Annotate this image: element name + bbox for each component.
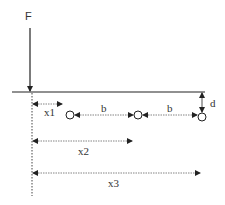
- support-circle-3: [198, 113, 206, 121]
- b-label-2: b: [167, 102, 173, 114]
- x3-label: x3: [108, 177, 120, 189]
- b-label-1: b: [101, 102, 107, 114]
- x1-label: x1: [44, 106, 55, 118]
- d-label: d: [210, 97, 216, 109]
- support-circle-1: [66, 111, 74, 119]
- beam-diagram: F x1 b b d x2 x3: [0, 0, 225, 205]
- force-label: F: [25, 10, 32, 22]
- support-circle-2: [134, 111, 142, 119]
- x2-label: x2: [78, 145, 89, 157]
